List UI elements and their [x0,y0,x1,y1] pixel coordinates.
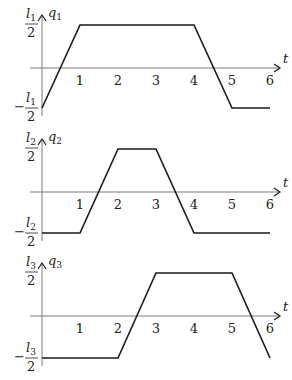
t-tick-label-4: 4 [190,321,198,336]
upper-limit-denominator: 2 [27,149,35,164]
q-axis-label-subscript: 1 [56,12,62,22]
plot-q1: tq1l12−l12123456 [14,5,289,124]
t-tick-label-4: 4 [190,197,198,212]
t-tick-label-2: 2 [114,73,122,88]
upper-limit-numerator: l1 [26,6,36,23]
upper-limit-numerator: l2 [26,130,36,147]
q-axis-label: q2 [48,129,62,146]
t-tick-label-2: 2 [114,321,122,336]
trajectory-curve-q1 [42,25,270,108]
lower-limit-subscript: 3 [30,347,36,357]
t-tick-label-5: 5 [228,321,236,336]
lower-limit-numerator: l3 [26,340,36,357]
lower-limit-denominator: 2 [27,359,35,374]
t-tick-label-1: 1 [76,197,84,212]
trapezoidal-joint-trajectories-figure: tq1l12−l12123456tq2l22−l22123456tq3l32−l… [0,0,292,380]
upper-limit-subscript: 3 [30,261,36,271]
t-axis-label: t [283,175,289,190]
lower-limit-numerator: l2 [26,215,36,232]
t-tick-label-1: 1 [76,321,84,336]
lower-limit-subscript: 1 [30,97,36,107]
t-tick-label-2: 2 [114,197,122,212]
q-axis-label-subscript: 3 [56,260,62,270]
lower-limit-denominator: 2 [27,234,35,249]
upper-limit-denominator: 2 [27,273,35,288]
upper-limit-denominator: 2 [27,25,35,40]
t-tick-label-1: 1 [76,73,84,88]
lower-limit-minus-sign: − [14,224,25,239]
t-tick-label-6: 6 [266,73,274,88]
upper-limit-numerator: l3 [26,254,36,271]
q-axis-label-subscript: 2 [56,136,62,146]
t-tick-label-4: 4 [190,73,198,88]
t-tick-label-3: 3 [152,321,160,336]
t-tick-label-6: 6 [266,197,274,212]
lower-limit-subscript: 2 [30,222,36,232]
t-axis-label: t [283,51,289,66]
t-axis-label: t [283,299,289,314]
q-axis-label: q3 [48,253,62,270]
lower-limit-minus-sign: − [14,349,25,364]
t-tick-label-5: 5 [228,197,236,212]
t-tick-label-5: 5 [228,73,236,88]
upper-limit-subscript: 1 [30,13,36,23]
lower-limit-denominator: 2 [27,109,35,124]
lower-limit-numerator: l1 [26,90,36,107]
q-axis-label: q1 [48,5,62,22]
t-tick-label-6: 6 [266,321,274,336]
upper-limit-subscript: 2 [30,137,36,147]
trajectory-curve-q2 [42,149,270,233]
lower-limit-minus-sign: − [14,99,25,114]
t-tick-label-3: 3 [152,73,160,88]
t-tick-label-3: 3 [152,197,160,212]
plot-q2: tq2l22−l22123456 [14,129,289,249]
plot-q3: tq3l32−l32123456 [14,253,289,374]
